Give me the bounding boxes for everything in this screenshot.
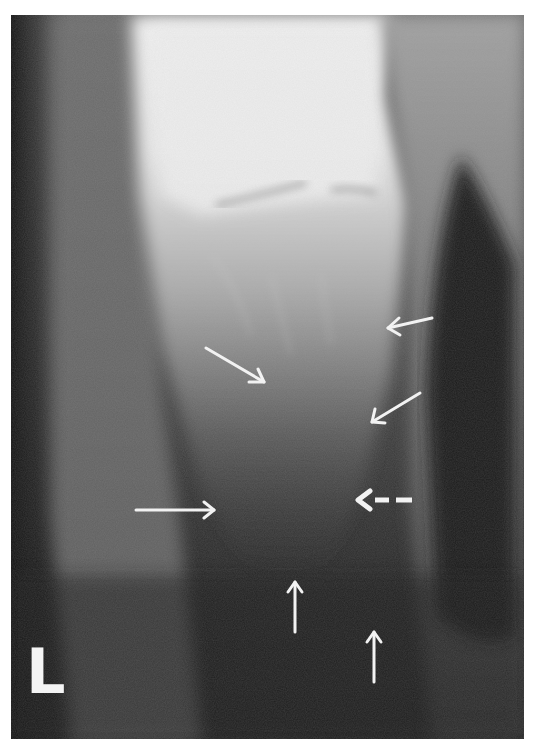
arrow-2 xyxy=(388,318,432,335)
arrow-4 xyxy=(136,502,214,518)
arrow-7 xyxy=(367,632,381,682)
arrow-5-dashed xyxy=(358,491,412,509)
arrow-6 xyxy=(288,582,302,632)
arrow-1 xyxy=(206,348,264,382)
side-marker-label: L xyxy=(26,641,66,703)
annotation-layer xyxy=(11,15,524,739)
arrow-3 xyxy=(372,393,420,423)
radiograph-frame: L xyxy=(11,15,524,739)
